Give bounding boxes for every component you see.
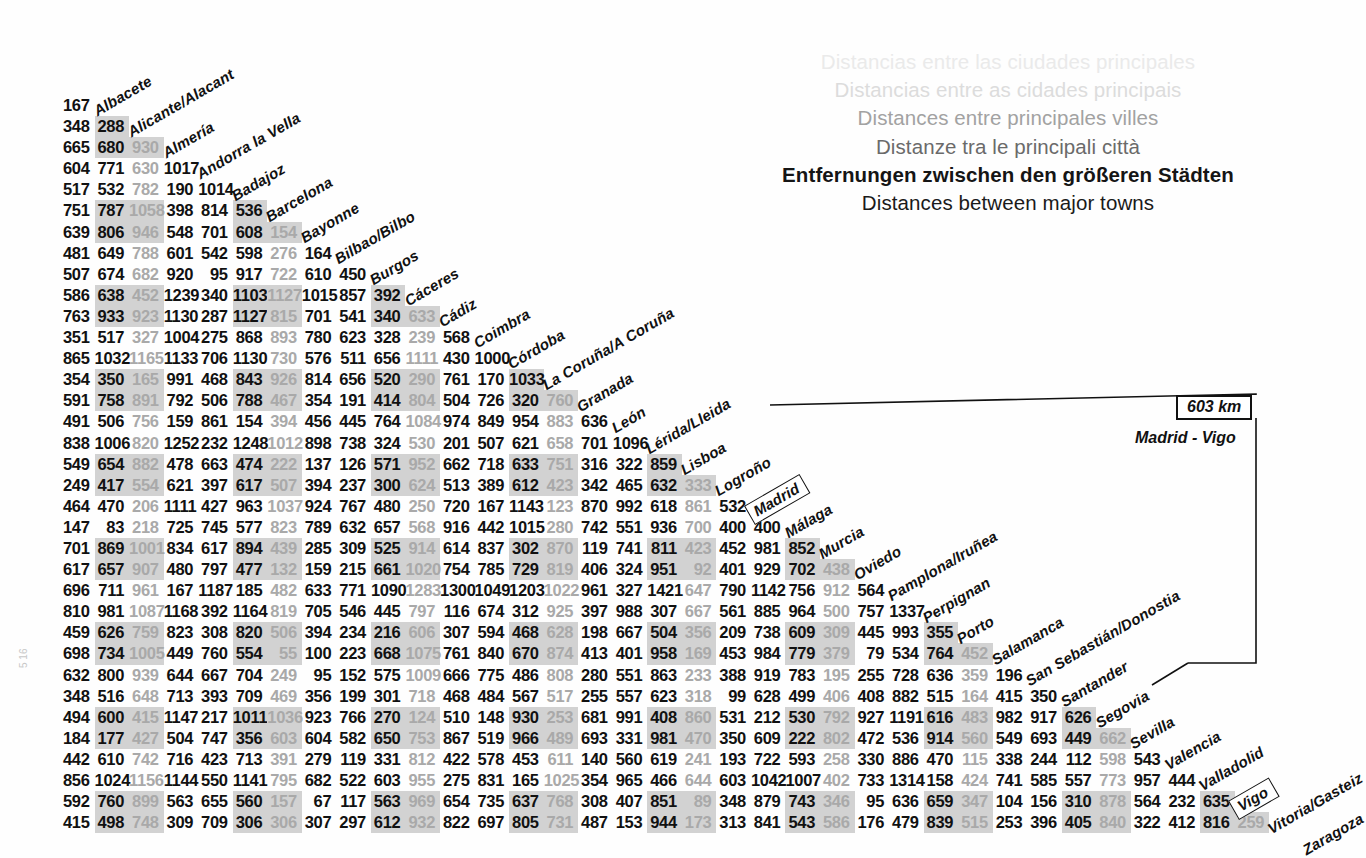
distance-cell: 955: [405, 770, 440, 791]
distance-cell: 185: [233, 580, 268, 601]
distance-cell: 929: [751, 559, 786, 580]
distance-cell: 348: [60, 686, 95, 707]
distance-cell: 193: [716, 749, 751, 770]
distance-cell: 506: [267, 622, 302, 643]
distance-cell: 734: [95, 643, 130, 664]
distance-cell: 408: [647, 707, 682, 728]
distance-cell: 742: [578, 517, 613, 538]
distance-cell: 981: [751, 538, 786, 559]
distance-cell: 393: [198, 686, 233, 707]
distance-cell: 709: [198, 812, 233, 833]
distance-cell: 1165: [129, 348, 164, 369]
distance-cell: 571: [371, 454, 406, 475]
distance-cell: 661: [371, 559, 406, 580]
matrix-row: 639806946548701608154: [60, 222, 1269, 243]
distance-cell: 1087: [129, 601, 164, 622]
distance-cell: 478: [164, 454, 199, 475]
distance-cell: 338: [993, 749, 1028, 770]
distance-cell: 771: [336, 580, 371, 601]
matrix-row: 6176579074807974771321592156611020754785…: [60, 559, 1269, 580]
matrix-row: 8109811087116839211648197055464457971166…: [60, 601, 1269, 622]
distance-cell: 470: [682, 728, 717, 749]
distance-cell: 157: [267, 791, 302, 812]
distance-cell: 567: [509, 686, 544, 707]
distance-cell: 406: [578, 559, 613, 580]
distance-cell: 423: [544, 475, 579, 496]
distance-cell: 623: [647, 686, 682, 707]
distance-cell: 944: [647, 812, 682, 833]
distance-cell: 633: [405, 306, 440, 327]
distance-cell: 306: [233, 812, 268, 833]
distance-value-box: 603 km: [1176, 395, 1252, 420]
distance-cell: 184: [60, 728, 95, 749]
distance-cell: 891: [129, 390, 164, 411]
distance-cell: 680: [95, 137, 130, 158]
distance-cell: 701: [302, 306, 337, 327]
distance-cell: 347: [958, 791, 993, 812]
distance-cell: 394: [302, 622, 337, 643]
distance-cell: 733: [855, 770, 890, 791]
distance-cell: 867: [440, 728, 475, 749]
distance-cell: 324: [371, 433, 406, 454]
distance-cell: 916: [440, 517, 475, 538]
distance-cell: 397: [198, 475, 233, 496]
distance-cell: 532: [95, 179, 130, 200]
distance-cell: 831: [475, 770, 510, 791]
distance-cell: 309: [820, 622, 855, 643]
distance-cell: 327: [129, 327, 164, 348]
distance-cell: 925: [544, 601, 579, 622]
distance-cell: 398: [164, 200, 199, 221]
distance-cell: 713: [233, 749, 268, 770]
distance-cell: 939: [129, 665, 164, 686]
distance-cell: 307: [302, 812, 337, 833]
distance-cell: 560: [958, 728, 993, 749]
distance-cell: 504: [440, 390, 475, 411]
distance-cell: 331: [613, 728, 648, 749]
distance-cell: 674: [95, 264, 130, 285]
distance-cell: 728: [889, 665, 924, 686]
distance-cell: 839: [924, 812, 959, 833]
distance-cell: 392: [198, 601, 233, 622]
distance-cell: 788: [233, 390, 268, 411]
distance-cell: 67: [302, 791, 337, 812]
distance-cell: 400: [716, 517, 751, 538]
distance-cell: 800: [95, 665, 130, 686]
distance-cell: 356: [302, 686, 337, 707]
distance-cell: 822: [440, 812, 475, 833]
title-line-gl: Distancias entre as cidades principais: [688, 76, 1328, 104]
distance-cell: 882: [129, 454, 164, 475]
distance-cell: 609: [785, 622, 820, 643]
distance-cell: 549: [993, 728, 1028, 749]
distance-cell: 517: [95, 327, 130, 348]
distance-cell: 658: [544, 433, 579, 454]
distance-cell: 394: [267, 411, 302, 432]
distance-cell: 300: [371, 475, 406, 496]
distance-cell: 617: [198, 538, 233, 559]
distance-cell: 397: [578, 601, 613, 622]
distance-cell: 1090: [371, 580, 406, 601]
matrix-row: 3543501659914688439268146565202907611701…: [60, 369, 1269, 390]
distance-cell: 190: [164, 179, 199, 200]
distance-cell: 720: [440, 496, 475, 517]
distance-cell: 470: [95, 496, 130, 517]
distance-cell: 954: [509, 411, 544, 432]
title-line-fr: Distances entre principales villes: [688, 104, 1328, 132]
distance-cell: 952: [405, 454, 440, 475]
distance-cell: 1015: [509, 517, 544, 538]
distance-cell: 706: [198, 348, 233, 369]
distance-cell: 563: [164, 791, 199, 812]
distance-cell: 515: [924, 686, 959, 707]
distance-cell: 857: [336, 285, 371, 306]
distance-cell: 280: [578, 665, 613, 686]
distance-cell: 917: [1027, 707, 1062, 728]
distance-cell: 359: [958, 665, 993, 686]
distance-cell: 718: [475, 454, 510, 475]
distance-cell: 1300: [440, 580, 475, 601]
distance-cell: 760: [198, 643, 233, 664]
distance-cell: 804: [405, 390, 440, 411]
distance-cell: 823: [267, 517, 302, 538]
distance-cell: 452: [716, 538, 751, 559]
distance-cell: 148: [475, 707, 510, 728]
distance-cell: 350: [95, 369, 130, 390]
distance-cell: 1007: [785, 770, 820, 791]
